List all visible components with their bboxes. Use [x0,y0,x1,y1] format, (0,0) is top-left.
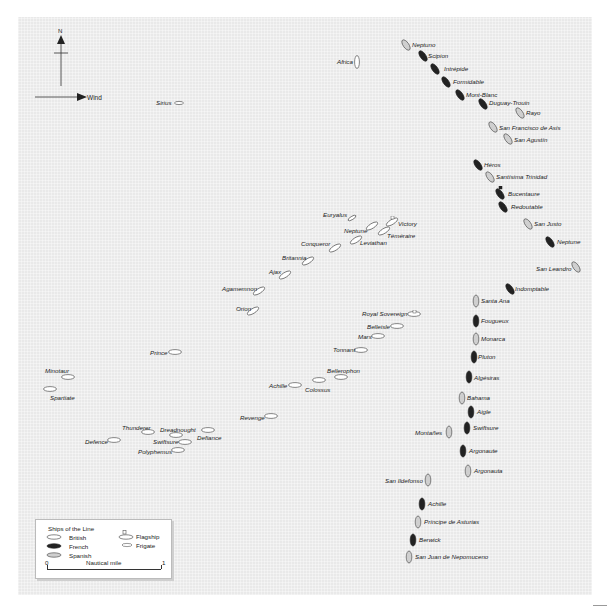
legend-british: British [69,534,86,541]
french-ship-label: Berwick [419,537,441,543]
british-ship-label: Royal Sovereign [362,311,407,317]
french-ship-label: Neptune [557,239,580,245]
british-ship-label: Agamemnon [222,286,257,292]
legend-french: French [69,543,88,550]
british-ship-icon [171,99,187,107]
british-ship-label: Dreadnought [160,427,196,433]
spanish-ship-label: Santísima Trinidad [496,174,547,180]
british-ship-label: Defence [85,439,108,445]
wind-label: Wind [87,94,102,101]
french-ship-label: Aigle [477,409,491,415]
spanish-ship-icon [46,552,62,558]
french-ship-icon [471,313,481,329]
spanish-ship-icon [401,37,411,53]
british-ship-icon [177,438,193,446]
british-ship-icon [287,381,303,389]
scale-label: Nautical mile [86,559,121,566]
scale-tick-end [161,565,162,569]
british-ship-label: Defiance [197,435,221,441]
spanish-ship-label: San Leandro [536,266,571,272]
british-ship-icon [370,332,386,340]
french-ship-icon [545,234,555,250]
french-ship-icon [455,87,465,103]
spanish-ship-label: Argonauta [474,468,503,474]
spanish-ship-label: Príncipe de Asturias [424,519,479,525]
british-ship-icon [263,412,279,420]
british-ship-label: Colossus [305,387,330,393]
map-legend: Ships of the Line British French Spanish… [35,519,172,579]
spanish-ship-icon [488,119,498,135]
british-ship-label: Polyphemus [138,449,172,455]
british-ship-icon [200,426,216,434]
british-ship-label: Tonnant [333,347,355,353]
british-ship-label: Orion [236,306,251,312]
french-ship-icon [464,369,474,385]
spanish-ship-icon [471,331,481,347]
british-ship-label: Téméraire [387,233,415,239]
french-ship-label: Redoutable [511,204,543,210]
french-ship-icon [462,420,472,436]
french-ship-icon [441,74,451,90]
british-ship-icon [170,446,186,454]
british-ship-label: Leviathan [360,240,387,246]
legend-spanish: Spanish [69,552,91,559]
british-ship-label: Africa [337,59,353,65]
british-ship-icon [311,376,327,384]
french-ship-icon [418,48,428,64]
french-ship-label: Formidable [453,79,484,85]
british-ship-label: Swiftsure [153,439,178,445]
british-ship-icon [167,348,183,356]
british-ship-icon [389,322,405,330]
spanish-ship-icon [571,259,581,275]
british-ship-icon [406,310,422,318]
spanish-ship-label: Bahama [467,395,490,401]
french-ship-label: Intrépide [444,66,468,72]
spanish-ship-label: Montañes [415,430,442,436]
spanish-ship-label: San Ildefonso [385,478,423,484]
french-ship-label: Indomptable [515,286,549,292]
spanish-ship-icon [413,514,423,530]
spanish-ship-label: San Justo [534,221,562,227]
british-ship-label: Bellerophon [327,368,360,374]
spanish-ship-icon [457,390,467,406]
french-ship-label: Héros [484,162,501,168]
french-ship-label: Achille [428,501,446,507]
wind-arrow-icon [35,92,87,102]
spanish-ship-icon [423,472,433,488]
french-ship-icon [408,532,418,548]
compass-north-label: N [58,28,62,34]
british-ship-label: Spartiate [50,395,75,401]
british-ship-label: Ajax [269,269,281,275]
french-ship-label: Pluton [478,354,496,360]
french-ship-icon [417,496,427,512]
legend-frigate: Frigate [136,542,155,549]
french-ship-label: Scipion [428,53,448,59]
spanish-ship-label: Santa Ana [481,298,510,304]
british-ship-label: Britannia [282,255,306,261]
british-ship-label: Achille [269,383,287,389]
spanish-ship-icon [463,463,473,479]
spanish-ship-icon [404,549,414,565]
british-ship-icon [353,346,369,354]
legend-flagship: Flagship [136,533,159,540]
spanish-ship-icon [485,169,495,185]
british-ship-label: Thunderer [122,425,151,431]
spanish-ship-label: Monarca [481,336,505,342]
british-ship-label: Conqueror [301,241,330,247]
french-ship-icon [458,443,468,459]
french-ship-label: Swiftsure [473,425,498,431]
spanish-ship-icon [523,216,533,232]
british-ship-label: Sirius [156,100,171,106]
scale-end: 1 [162,559,165,566]
corner-mark [593,605,607,606]
spanish-ship-icon [515,105,525,121]
french-ship-label: Algésiras [474,375,499,381]
british-ship-label: Revenge [240,415,265,421]
french-ship-icon [505,281,515,297]
spanish-ship-label: San Juan de Nepomuceno [415,554,488,560]
spanish-ship-label: San Agustín [514,137,547,143]
spanish-ship-icon [444,424,454,440]
british-ship-label: Belleisle [367,324,390,330]
spanish-ship-icon [503,131,513,147]
scale-tick-start [47,565,48,569]
